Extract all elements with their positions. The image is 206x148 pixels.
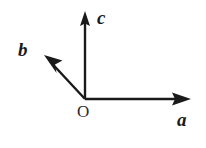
axis-label-c: c [97,8,105,27]
axis-c-vector [80,11,90,99]
origin-label: O [77,103,89,120]
axis-a-vector [85,93,191,106]
axis-label-b: b [18,40,28,59]
axis-b-line [52,64,85,100]
axis-b-vector [44,55,85,99]
crystal-axes-figure: a b c O [0,0,206,148]
axis-label-a: a [177,110,187,129]
